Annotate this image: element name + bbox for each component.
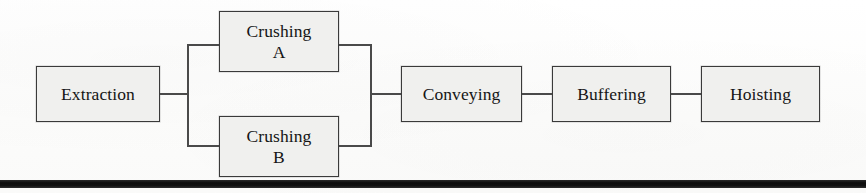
- edge-crushing-a-to-merge: [339, 44, 372, 46]
- bottom-rule: [0, 180, 866, 188]
- node-crushing-b-label: Crushing B: [220, 126, 338, 167]
- node-crushing-a-label: Crushing A: [220, 21, 338, 62]
- edge-split-bus: [187, 45, 189, 146]
- edge-split-to-crushing-a: [187, 44, 220, 46]
- edge-conveying-to-buffering: [522, 93, 552, 95]
- edge-extraction-to-split: [160, 93, 189, 95]
- edge-buffering-to-hoisting: [671, 93, 701, 95]
- node-crushing-a[interactable]: Crushing A: [219, 11, 339, 72]
- edge-merge-bus: [370, 45, 372, 146]
- node-buffering-label: Buffering: [553, 84, 670, 104]
- node-hoisting-label: Hoisting: [702, 84, 819, 104]
- node-conveying[interactable]: Conveying: [401, 66, 522, 122]
- node-hoisting[interactable]: Hoisting: [701, 66, 820, 122]
- edge-split-to-crushing-b: [187, 145, 220, 147]
- node-buffering[interactable]: Buffering: [552, 66, 671, 122]
- edge-merge-to-conveying: [370, 93, 401, 95]
- node-extraction[interactable]: Extraction: [36, 66, 160, 122]
- edge-crushing-b-to-merge: [339, 145, 372, 147]
- node-conveying-label: Conveying: [402, 84, 521, 104]
- node-crushing-b[interactable]: Crushing B: [219, 116, 339, 177]
- node-extraction-label: Extraction: [37, 84, 159, 104]
- process-flow-diagram: Extraction Crushing A Crushing B Conveyi…: [0, 0, 866, 193]
